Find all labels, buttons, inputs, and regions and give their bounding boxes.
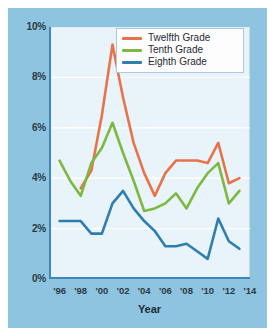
legend-item-eighth-grade: Eighth Grade [122,56,238,68]
y-tick-label: 10% [10,21,46,32]
chart-legend: Twelfth Grade Tenth Grade Eighth Grade [116,28,244,73]
legend-label-tenth-grade: Tenth Grade [148,44,203,56]
y-tick-label: 4% [10,172,46,183]
legend-item-twelfth-grade: Twelfth Grade [122,32,238,44]
legend-swatch-eighth-grade [122,61,142,64]
x-tick-label: '14 [236,285,264,296]
y-tick-label: 2% [10,223,46,234]
legend-swatch-twelfth-grade [122,37,142,40]
chart-figure: 0%2%4%6%8%10% '96'98'00'02'04'06'08'10'1… [0,0,275,336]
y-tick-label: 6% [10,122,46,133]
legend-item-tenth-grade: Tenth Grade [122,44,238,56]
legend-label-twelfth-grade: Twelfth Grade [148,32,210,44]
x-axis-title: Year [49,303,250,315]
y-tick-label: 8% [10,71,46,82]
legend-label-eighth-grade: Eighth Grade [148,56,207,68]
y-tick-label: 0% [10,273,46,284]
legend-swatch-tenth-grade [122,49,142,52]
